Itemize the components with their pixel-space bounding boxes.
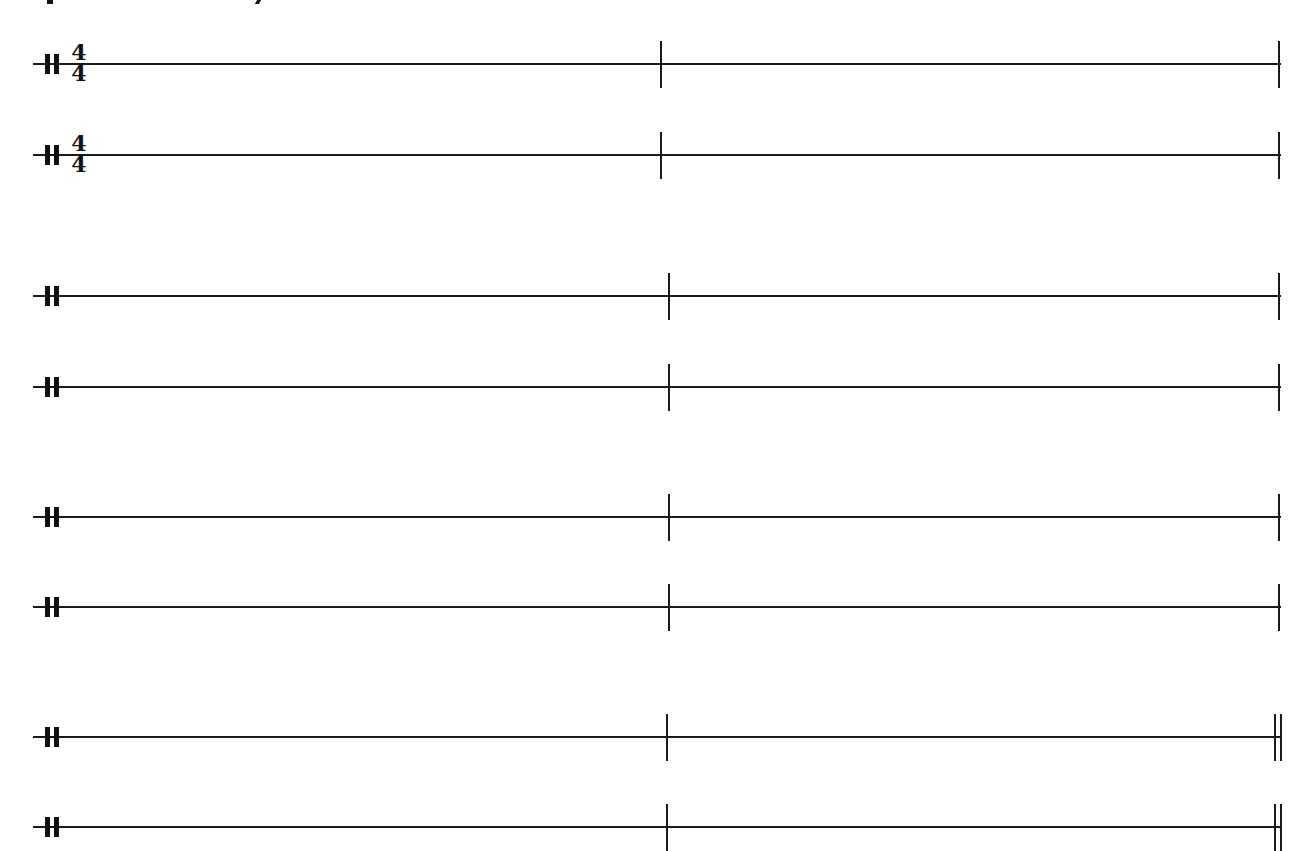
- barline: [668, 584, 670, 631]
- time-signature-denominator: 4: [70, 63, 88, 84]
- percussion-clef-icon: [45, 145, 60, 165]
- staff-line: [33, 386, 1281, 388]
- time-signature: 44: [70, 133, 88, 175]
- barline: [666, 804, 668, 851]
- staff-line: [33, 154, 1281, 156]
- staff-line: [33, 736, 1281, 738]
- clipped-text-fragment: [255, 0, 261, 4]
- staff-line: [33, 826, 1281, 828]
- end-barline: [1278, 494, 1280, 541]
- final-barline-thin: [1274, 804, 1276, 851]
- clipped-text-fragment: [47, 0, 53, 4]
- percussion-clef-icon: [45, 54, 60, 74]
- end-barline: [1278, 364, 1280, 411]
- percussion-clef-icon: [45, 286, 60, 306]
- final-barline-thick: [1280, 804, 1282, 851]
- percussion-clef-icon: [45, 817, 60, 837]
- staff-line: [33, 516, 1281, 518]
- barline: [668, 273, 670, 320]
- final-barline-thick: [1280, 714, 1282, 761]
- end-barline: [1278, 584, 1280, 631]
- end-barline: [1278, 273, 1280, 320]
- percussion-clef-icon: [45, 377, 60, 397]
- staff-line: [33, 63, 1281, 65]
- percussion-clef-icon: [45, 727, 60, 747]
- barline: [668, 364, 670, 411]
- barline: [668, 494, 670, 541]
- staff-line: [33, 295, 1281, 297]
- barline: [666, 714, 668, 761]
- staff-line: [33, 606, 1281, 608]
- time-signature: 44: [70, 42, 88, 84]
- end-barline: [1278, 132, 1280, 179]
- final-barline-thin: [1274, 714, 1276, 761]
- end-barline: [1278, 41, 1280, 88]
- percussion-clef-icon: [45, 597, 60, 617]
- barline: [660, 132, 662, 179]
- time-signature-denominator: 4: [70, 154, 88, 175]
- barline: [660, 41, 662, 88]
- percussion-clef-icon: [45, 507, 60, 527]
